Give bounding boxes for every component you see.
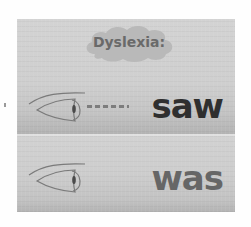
title-label: Dyslexia: xyxy=(81,34,177,50)
illustration-canvas: Dyslexia: saw was xyxy=(0,0,251,227)
word-was: was xyxy=(151,161,223,195)
dyslexia-illustration-panel: Dyslexia: saw was xyxy=(17,19,235,212)
title-cloud: Dyslexia: xyxy=(81,24,177,64)
dashed-connector xyxy=(87,105,129,108)
section-divider xyxy=(17,134,235,136)
word-saw: saw xyxy=(151,89,223,123)
eye-icon xyxy=(27,161,87,199)
eye-icon xyxy=(27,90,87,128)
edge-speck xyxy=(4,103,6,107)
